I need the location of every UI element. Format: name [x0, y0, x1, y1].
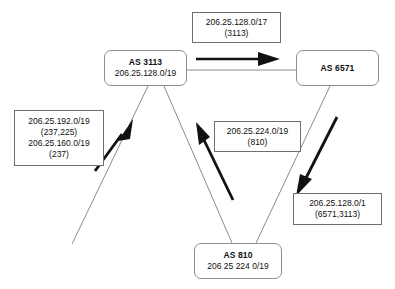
- annotation-label-top: 206.25.128.0/17 (3113): [192, 12, 281, 43]
- arrow-as3113-to-as6571: [196, 52, 280, 66]
- arrow-as6571-to-as810: [296, 117, 337, 196]
- annotation-line: (237): [49, 149, 69, 160]
- annotation-label-middle: 206.25.224.0/19 (810): [214, 121, 301, 152]
- as-node-title: AS 6571: [321, 63, 355, 74]
- bgp-topology-diagram: AS 3113 206.25.128.0/19 AS 6571 AS 810 2…: [0, 0, 395, 289]
- as-node-as810[interactable]: AS 810 206 25 224 0/19: [194, 243, 282, 279]
- annotation-line: (6571,3113): [315, 209, 360, 220]
- as-node-prefix: 206 25 224 0/19: [207, 261, 268, 272]
- as-node-title: AS 810: [224, 250, 253, 261]
- annotation-line: 206.25.160.0/19: [28, 138, 89, 149]
- annotation-line: (810): [248, 137, 268, 148]
- annotation-label-right: 206.25.128.0/1 (6571,3113): [293, 193, 382, 225]
- annotation-label-left: 206.25.192.0/19 (237,225) 206.25.160.0/1…: [14, 110, 104, 166]
- annotation-line: 206.25.224.0/19: [227, 126, 288, 137]
- annotation-line: 206.25.128.0/1: [309, 198, 366, 209]
- as-node-prefix: 206.25.128.0/19: [115, 68, 176, 79]
- as-node-title: AS 3113: [129, 57, 162, 68]
- as-node-as3113[interactable]: AS 3113 206.25.128.0/19: [104, 50, 187, 86]
- annotation-line: 206.25.128.0/17: [206, 17, 267, 28]
- annotation-line: (237,225): [41, 127, 77, 138]
- link-as3113-as810: [164, 86, 232, 243]
- as-node-as6571[interactable]: AS 6571: [296, 50, 379, 86]
- annotation-line: 206.25.192.0/19: [28, 116, 89, 127]
- annotation-line: (3113): [225, 28, 249, 39]
